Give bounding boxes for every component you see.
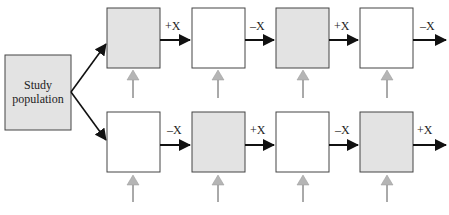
exposure-label: –X: [249, 19, 265, 33]
period-box: [192, 8, 245, 68]
study-population-box: Study population: [5, 55, 71, 130]
period-box: [276, 112, 329, 172]
crossover-diagram: Study population +X –X +X –X –X: [0, 0, 449, 215]
exposure-label: +X: [165, 19, 181, 33]
measurement-arrow-icon: [297, 175, 309, 202]
exposure-label: –X: [419, 19, 435, 33]
exposure-label: +X: [334, 19, 350, 33]
measurement-arrow-icon: [212, 175, 224, 202]
measurement-arrow-icon: [381, 70, 393, 98]
study-population-label-line1: Study: [24, 78, 52, 92]
period-box: [360, 112, 413, 172]
period-box: [192, 112, 245, 172]
period-box: [107, 8, 160, 68]
measurement-arrow-icon: [127, 70, 139, 98]
measurement-arrow-icon: [212, 70, 224, 98]
measurement-arrow-icon: [127, 175, 139, 202]
row-bottom: –X +X –X +X: [107, 112, 446, 202]
exposure-label: +X: [417, 123, 433, 137]
measurement-arrow-icon: [381, 175, 393, 202]
row-top: +X –X +X –X: [107, 8, 446, 98]
period-box: [107, 112, 160, 172]
measurement-arrow-icon: [297, 70, 309, 98]
branch-arrow-bottom: [71, 92, 106, 140]
exposure-label: +X: [250, 123, 266, 137]
study-population-label-line2: population: [12, 92, 63, 106]
exposure-label: –X: [166, 123, 182, 137]
exposure-label: –X: [334, 123, 350, 137]
period-box: [276, 8, 329, 68]
period-box: [360, 8, 413, 68]
branch-arrow-top: [71, 44, 106, 92]
